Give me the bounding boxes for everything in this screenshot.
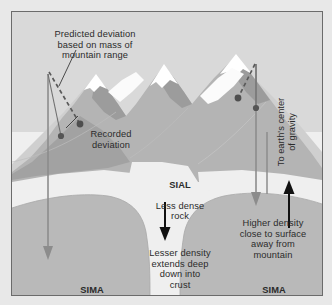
diagram-frame: Predicted deviation based on mass of mou… <box>11 11 323 296</box>
left-predicted-bob <box>77 121 84 128</box>
right-recorded-bob <box>253 105 259 111</box>
label-recorded-deviation: Recorded deviation <box>74 129 148 150</box>
figure-canvas: Predicted deviation based on mass of mou… <box>0 0 332 305</box>
label-sial: SIAL Less dense rock <box>137 169 223 233</box>
label-to-earths-center-of-gravity: To earth's center of gravity <box>276 94 297 170</box>
right-predicted-bob <box>235 95 242 102</box>
label-sial-title: SIAL <box>137 180 223 191</box>
label-sima-left-title: SIMA <box>42 285 142 296</box>
label-predicted-deviation: Predicted deviation based on mass of mou… <box>30 29 160 61</box>
label-sial-subtitle: Less dense rock <box>137 201 223 222</box>
label-sima-right-title: SIMA <box>224 285 323 296</box>
label-sima-left: SIMA Denser rock <box>42 274 142 296</box>
left-recorded-bob <box>58 133 64 139</box>
label-higher-density: Higher density close to surface away fro… <box>215 218 323 260</box>
label-sima-right: SIMA Denser rock <box>224 274 323 296</box>
